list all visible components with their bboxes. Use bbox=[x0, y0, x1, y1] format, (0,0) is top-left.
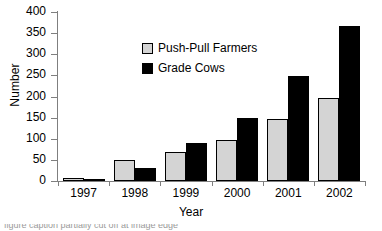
x-tick-label: 1998 bbox=[110, 186, 160, 200]
bar bbox=[267, 119, 288, 181]
x-tick-label: 1999 bbox=[161, 186, 211, 200]
bar bbox=[216, 140, 237, 181]
legend-swatch bbox=[142, 43, 153, 54]
y-tick-label: 300 bbox=[26, 46, 46, 61]
legend-item: Push-Pull Farmers bbox=[142, 41, 257, 56]
figure-caption-clipped: figure caption partially cut off at imag… bbox=[4, 224, 378, 231]
plot-area bbox=[58, 12, 365, 181]
bar bbox=[288, 76, 309, 181]
chart-legend: Push-Pull FarmersGrade Cows bbox=[142, 41, 257, 81]
bar bbox=[63, 178, 84, 181]
bar bbox=[318, 98, 339, 181]
x-tick-label: 2000 bbox=[212, 186, 262, 200]
bar bbox=[186, 143, 207, 181]
y-tick-mark bbox=[51, 118, 57, 119]
y-tick-mark bbox=[51, 75, 57, 76]
bar-group bbox=[263, 12, 314, 181]
y-tick-label: 400 bbox=[26, 4, 46, 19]
bar-group bbox=[160, 12, 211, 181]
y-tick-label: 150 bbox=[26, 110, 46, 125]
y-tick-mark bbox=[51, 160, 57, 161]
y-tick-label: 200 bbox=[26, 89, 46, 104]
bar bbox=[114, 160, 135, 181]
legend-item: Grade Cows bbox=[142, 61, 257, 76]
y-tick-label: 250 bbox=[26, 67, 46, 82]
y-tick-mark bbox=[51, 181, 57, 182]
x-tick-mark bbox=[365, 182, 366, 186]
bar-group bbox=[109, 12, 160, 181]
y-tick-label: 350 bbox=[26, 25, 46, 40]
legend-label: Push-Pull Farmers bbox=[158, 42, 257, 55]
y-tick-label: 0 bbox=[39, 173, 46, 188]
y-tick-mark bbox=[51, 12, 57, 13]
bar bbox=[165, 152, 186, 181]
bar bbox=[135, 168, 156, 181]
y-tick-mark bbox=[51, 54, 57, 55]
x-axis-label: Year bbox=[0, 205, 382, 219]
x-tick-label: 2001 bbox=[263, 186, 313, 200]
bar-group bbox=[314, 12, 365, 181]
bar bbox=[339, 26, 360, 181]
y-tick-label: 100 bbox=[26, 131, 46, 146]
y-tick-mark bbox=[51, 97, 57, 98]
bar-chart-figure: Number 050100150200250300350400 19971998… bbox=[0, 0, 382, 231]
y-tick-mark bbox=[51, 33, 57, 34]
x-tick-label: 2002 bbox=[314, 186, 364, 200]
bar bbox=[84, 179, 105, 181]
legend-swatch bbox=[142, 63, 153, 74]
bar-group bbox=[212, 12, 263, 181]
y-axis-label: Number bbox=[8, 47, 22, 123]
y-tick-label: 50 bbox=[33, 152, 46, 167]
x-tick-label: 1997 bbox=[59, 186, 109, 200]
bar bbox=[237, 118, 258, 181]
caption-text: figure caption partially cut off at imag… bbox=[4, 224, 378, 231]
bar-group bbox=[58, 12, 109, 181]
legend-label: Grade Cows bbox=[158, 62, 225, 75]
y-tick-mark bbox=[51, 139, 57, 140]
